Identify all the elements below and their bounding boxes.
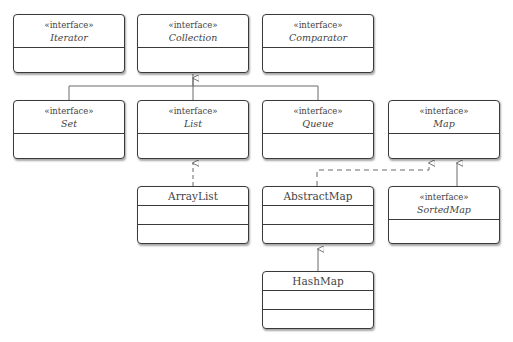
- class-header: «interface» Iterator: [14, 15, 124, 47]
- operations-compartment: [263, 224, 373, 243]
- stereotype-label: «interface»: [168, 20, 217, 31]
- class-header: «interface» Queue: [263, 101, 373, 133]
- attributes-compartment: [263, 133, 373, 158]
- class-header: «interface» List: [138, 101, 248, 133]
- class-header: «interface» Comparator: [263, 15, 373, 47]
- class-name: Set: [61, 117, 77, 130]
- operations-compartment: [138, 224, 248, 243]
- class-name: Map: [433, 117, 454, 130]
- stereotype-label: «interface»: [168, 106, 217, 117]
- class-name: AbstractMap: [283, 189, 352, 203]
- class-box-arraylist[interactable]: ArrayList: [137, 186, 249, 244]
- stereotype-label: «interface»: [293, 20, 342, 31]
- stereotype-label: «interface»: [44, 20, 93, 31]
- class-name: HashMap: [292, 274, 343, 288]
- class-box-abstractmap[interactable]: AbstractMap: [262, 186, 374, 244]
- class-name: ArrayList: [168, 189, 218, 203]
- stereotype-label: «interface»: [419, 106, 468, 117]
- attributes-compartment: [138, 205, 248, 224]
- class-name: SortedMap: [417, 203, 471, 216]
- class-header: «interface» Map: [389, 101, 499, 133]
- class-header: AbstractMap: [263, 187, 373, 205]
- class-header: ArrayList: [138, 187, 248, 205]
- class-box-list[interactable]: «interface» List: [137, 100, 249, 159]
- class-box-collection[interactable]: «interface» Collection: [137, 14, 249, 73]
- class-header: HashMap: [263, 272, 373, 290]
- attributes-compartment: [138, 47, 248, 72]
- attributes-compartment: [263, 205, 373, 224]
- realization-abstractmap-map: [317, 163, 429, 186]
- class-name: List: [184, 117, 202, 130]
- class-name: Queue: [302, 117, 333, 130]
- class-box-hashmap[interactable]: HashMap: [262, 271, 374, 329]
- class-name: Iterator: [50, 31, 87, 44]
- class-header: «interface» Collection: [138, 15, 248, 47]
- attributes-compartment: [138, 133, 248, 158]
- class-box-queue[interactable]: «interface» Queue: [262, 100, 374, 159]
- attributes-compartment: [263, 47, 373, 72]
- attributes-compartment: [389, 133, 499, 158]
- class-name: Comparator: [289, 31, 347, 44]
- attributes-compartment: [389, 219, 499, 243]
- class-box-sortedmap[interactable]: «interface» SortedMap: [388, 186, 500, 244]
- class-name: Collection: [169, 31, 218, 44]
- attributes-compartment: [263, 290, 373, 309]
- class-box-comparator[interactable]: «interface» Comparator: [262, 14, 374, 73]
- class-box-set[interactable]: «interface» Set: [13, 100, 125, 159]
- stereotype-label: «interface»: [419, 192, 468, 203]
- attributes-compartment: [14, 47, 124, 72]
- attributes-compartment: [14, 133, 124, 158]
- class-box-iterator[interactable]: «interface» Iterator: [13, 14, 125, 73]
- operations-compartment: [263, 309, 373, 328]
- class-header: «interface» Set: [14, 101, 124, 133]
- stereotype-label: «interface»: [44, 106, 93, 117]
- class-box-map[interactable]: «interface» Map: [388, 100, 500, 159]
- class-header: «interface» SortedMap: [389, 187, 499, 219]
- generalization-to-collection: [69, 74, 318, 100]
- stereotype-label: «interface»: [293, 106, 342, 117]
